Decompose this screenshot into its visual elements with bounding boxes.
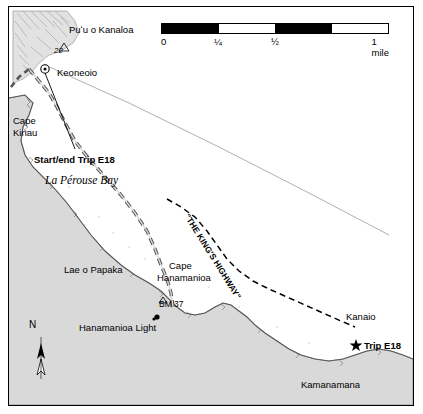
scale-tick-quarter: ¼ [214, 36, 222, 47]
scale-tick-mile: 1 mile [372, 36, 389, 58]
map-screenshot: 0 ¼ ½ 1 mile Puʻu o Kanaloa 22 Keoneoio … [0, 0, 423, 414]
label-bm37: BM 37 [159, 299, 184, 309]
scale-segment [219, 24, 276, 33]
map-frame: 0 ¼ ½ 1 mile Puʻu o Kanaloa 22 Keoneoio … [8, 6, 414, 406]
label-trip-e18: Trip E18 [364, 340, 401, 351]
label-cape-hanamanioa-line1: Cape [169, 260, 192, 271]
label-puu-o-kanaloa: Puʻu o Kanaloa [69, 24, 133, 35]
trip-route-coastal [45, 65, 389, 235]
hanamanioa-light-marker [152, 317, 155, 320]
label-kanaio: Kanaio [346, 311, 376, 322]
label-kamanamana: Kamanamana [301, 379, 360, 390]
label-lae-o-papaka: Lae o Papaka [64, 264, 123, 275]
label-hanamanioa-light: Hanamanioa Light [79, 322, 156, 333]
scale-bar-group: 0 ¼ ½ 1 mile [161, 23, 399, 67]
scale-tick-half: ½ [271, 36, 279, 47]
scale-tick-0: 0 [161, 36, 166, 47]
keoneoio-marker [41, 65, 49, 73]
label-start-end-trip: Start/end Trip E18 [34, 154, 115, 165]
scale-segment [332, 24, 388, 33]
start-end-leader-line [45, 73, 75, 149]
label-cape-kinau-line2: Kinau [13, 127, 37, 138]
scale-segment [162, 24, 219, 33]
scale-tick-labels: 0 ¼ ½ 1 mile [161, 36, 389, 50]
label-cape-hanamanioa-line2: Hanamanioa [157, 272, 211, 283]
label-cape-kinau-line1: Cape [13, 115, 36, 126]
label-la-perouse-bay: La Pérouse Bay [45, 174, 118, 186]
label-elevation-22: 22 [54, 46, 63, 55]
kanaio-star-marker [350, 339, 363, 351]
scale-bar [161, 23, 389, 34]
scale-segment [276, 24, 333, 33]
label-keoneoio: Keoneoio [57, 67, 97, 78]
label-north: N [29, 319, 36, 330]
